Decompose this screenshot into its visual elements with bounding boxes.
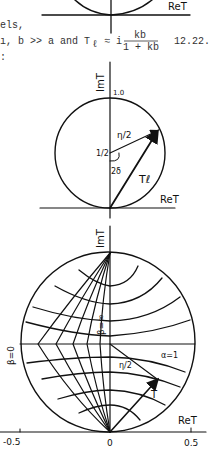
equation-number: 12.22.	[174, 36, 210, 47]
bottom-x-axis-label: ReT	[178, 415, 198, 426]
alpha-label: α=1	[161, 351, 178, 360]
text-line-3: :	[0, 52, 6, 63]
bottom-y-axis-label: ImT	[95, 228, 106, 248]
top-figure-fragment: ReT	[42, 0, 190, 33]
middle-figure: ImT 1.0 1/2 η/2 2δ Tℓ ReT	[40, 62, 180, 218]
beta-zero-label: β=0	[6, 346, 16, 365]
x-tick-label-neg: -0.5	[3, 437, 21, 447]
bottom-vector-label: T	[150, 389, 158, 400]
bottom-figure: ImT β=∞ β=0 α=1 η/2 T	[0, 226, 206, 448]
bottom-radius-label: η/2	[119, 361, 132, 370]
angle-arc	[110, 153, 119, 161]
top-circle-arc	[75, 0, 152, 15]
angle-label: 2δ	[111, 167, 121, 176]
vector-label: Tℓ	[138, 173, 150, 186]
x-tick-label-zero: 0	[107, 438, 113, 448]
fraction-denominator: 1 + kb	[123, 42, 159, 53]
middle-x-axis-label: ReT	[160, 194, 180, 205]
text-line-1: els,	[0, 20, 24, 31]
textbook-page: ReT els, ı, b >> a and T ℓ ≈ i kb 1 + kb…	[0, 0, 217, 458]
body-text: els, ı, b >> a and T ℓ ≈ i kb 1 + kb 12.…	[0, 20, 210, 63]
x-tick-label-pos: 0.5	[184, 438, 198, 448]
beta-curves	[38, 253, 110, 432]
text-line-2-approx: ≈ i	[104, 36, 122, 47]
beta-inf-label: β=∞	[96, 314, 106, 335]
center-label: 1/2	[96, 149, 109, 158]
alpha-curves	[26, 266, 190, 420]
top-tick-label: 1.0	[113, 89, 124, 97]
middle-y-axis-label: ImT	[95, 72, 106, 92]
top-x-axis-label: ReT	[168, 1, 188, 12]
text-line-2: ı, b >> a and T	[0, 36, 90, 47]
text-line-2-subscript: ℓ	[92, 39, 98, 50]
fraction-numerator: kb	[134, 30, 146, 41]
radius-label: η/2	[117, 130, 131, 140]
